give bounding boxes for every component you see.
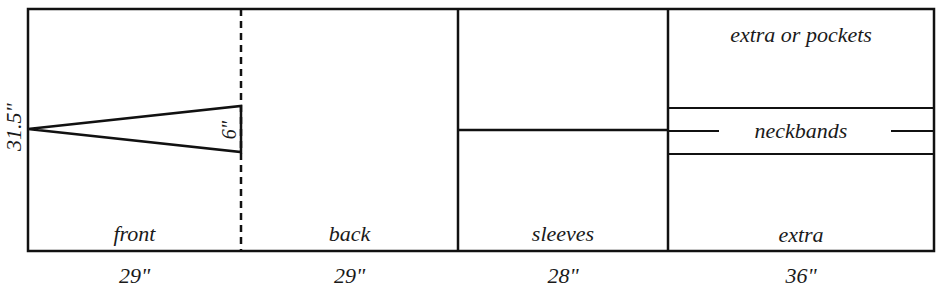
dart-dimension: 6" — [219, 115, 239, 145]
section-label-front: front — [28, 223, 241, 245]
section-label-sleeves: sleeves — [458, 223, 668, 245]
height-dimension: 31.5" — [3, 107, 25, 151]
width-dimension-sleeves: 28" — [458, 265, 668, 287]
section-label-extra-or-pockets: extra or pockets — [668, 24, 934, 46]
width-dimension-front: 29" — [28, 265, 241, 287]
section-label-neckbands: neckbands — [668, 120, 934, 142]
section-label-extra: extra — [668, 224, 934, 246]
width-dimension-extra: 36" — [668, 265, 934, 287]
section-label-back: back — [241, 223, 458, 245]
width-dimension-back: 29" — [241, 265, 458, 287]
neck-dart-triangle — [28, 106, 241, 152]
